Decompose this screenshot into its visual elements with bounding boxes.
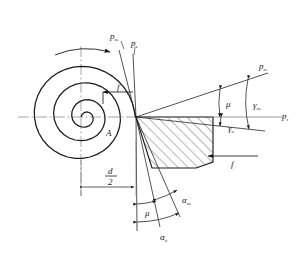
workpiece-spiral	[34, 66, 135, 158]
label-alpha-o: αo	[160, 232, 168, 243]
rotation-arrow	[55, 49, 110, 55]
arc-alpha-oe	[157, 190, 177, 199]
leader-p-se	[121, 41, 124, 49]
spiral-curve	[34, 66, 135, 158]
arc-gamma-o	[220, 117, 221, 126]
label-p-s: ps	[130, 38, 138, 49]
label-diameter-numerator: d	[108, 166, 113, 176]
arc-gamma-oe	[246, 79, 249, 129]
label-gamma-o: γo	[228, 123, 235, 134]
label-feed-right: f	[231, 159, 235, 169]
technical-diagram: pse ps pre pr μ γo γoe μ αoe αo f f A d …	[0, 0, 302, 269]
label-p-se: pse	[109, 31, 119, 42]
diagram-canvas: pse ps pre pr μ γo γoe μ αoe αo f f A d …	[0, 0, 302, 269]
label-p-r: pr	[281, 111, 289, 122]
label-mu-bottom: μ	[144, 208, 150, 218]
label-gamma-oe: γoe	[253, 100, 262, 111]
rotation-arrow-arc	[55, 49, 110, 55]
label-point-a: A	[105, 128, 112, 138]
centerlines	[18, 46, 150, 196]
label-mu-top: μ	[225, 99, 231, 109]
cutting-tool-body	[130, 110, 222, 176]
label-diameter-denominator: 2	[108, 177, 113, 187]
arc-mu-bottom	[137, 201, 156, 204]
label-p-re: pre	[258, 61, 268, 72]
arc-mu-top	[219, 89, 220, 117]
label-alpha-oe: αoe	[182, 195, 192, 206]
